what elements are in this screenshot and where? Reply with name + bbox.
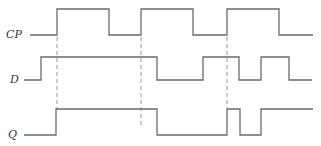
waveform-cp: [30, 9, 313, 35]
waveform-q: [24, 109, 313, 135]
signal-waveforms: [24, 9, 313, 135]
timing-diagram: CP D Q: [0, 0, 321, 146]
signal-label-q: Q: [8, 128, 17, 141]
signal-label-cp: CP: [6, 28, 22, 41]
waveform-d: [24, 57, 312, 80]
signal-label-d: D: [9, 73, 19, 86]
clock-edge-markers: [57, 37, 227, 128]
